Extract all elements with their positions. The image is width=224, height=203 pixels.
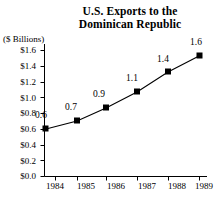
- plot-area: [0, 0, 224, 203]
- data-point-1987: [134, 89, 140, 95]
- data-series-line: [46, 56, 199, 129]
- x-axis-ticks: [56, 177, 200, 181]
- data-point-1988: [165, 69, 171, 75]
- data-point-1984: [43, 126, 49, 132]
- data-point-1985: [74, 118, 80, 124]
- data-point-1989: [197, 53, 203, 59]
- y-axis-ticks: [41, 51, 45, 177]
- data-point-markers: [43, 53, 203, 132]
- data-point-1986: [103, 105, 109, 111]
- chart-container: U.S. Exports to the Dominican Republic (…: [0, 0, 224, 203]
